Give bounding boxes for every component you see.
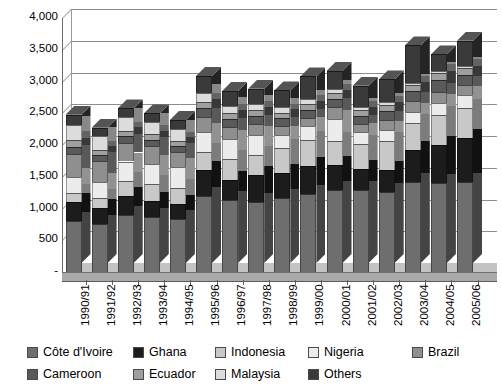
bar-segment [222,119,238,127]
bar-segment [274,148,290,173]
bar-segment [431,115,447,144]
bar-segment [118,215,134,272]
bar-segment [92,198,108,208]
bar-segment [248,175,264,201]
bar-segment [118,136,134,142]
x-axis-tick-label: 1992/93 [131,284,143,326]
bar-column [300,76,316,272]
bar-segment [118,143,134,162]
bar-segment [144,122,160,135]
bar-segment [405,182,421,272]
bar-side-face [134,99,143,263]
legend-item[interactable]: Others [308,368,362,381]
bar-column [431,54,447,272]
bar-segment [300,126,316,140]
bar-segment [274,118,290,126]
bar-segment [405,83,421,86]
bar-side-face [316,67,325,263]
bar-column [274,90,290,272]
legend-item[interactable]: Indonesia [215,346,285,359]
x-axis-tick-label: 1997/98 [261,284,273,326]
bar-segment [457,182,473,272]
bar-segment [66,125,82,141]
bar-column [222,91,238,272]
bar-segment [222,139,238,159]
bar-segment [144,146,160,164]
bar-segment [327,107,343,120]
bar-segment [92,136,108,150]
bar-segment [170,219,186,272]
x-axis-tick-label: 1995/96 [209,284,221,326]
legend-item[interactable]: Nigeria [308,346,364,359]
bar-segment [92,224,108,272]
bar-segment [353,190,369,272]
bar-segment [405,123,421,150]
bar-segment [170,204,186,219]
legend-item[interactable]: Malaysia [215,368,280,381]
bar-segment [144,217,160,272]
bar-segment [457,108,473,138]
bar-side-face [160,104,169,263]
floor-front [62,272,497,282]
bar-segment [379,102,395,105]
legend-item[interactable]: Côte d'Ivoire [27,346,113,359]
legend-item[interactable]: Ghana [133,346,187,359]
bar-segment [144,140,160,146]
bar-segment [431,73,447,80]
y-axis-tick-label: 1,500 [29,170,58,181]
bar-segment [66,147,82,154]
bar-column [379,79,395,272]
bar-segment [379,170,395,192]
legend-item[interactable]: Brazil [412,346,459,359]
bar-segment [274,113,290,119]
legend-item[interactable]: Cameroon [27,368,101,381]
bar-side-face [421,36,430,263]
bar-segment [170,120,186,129]
bar-column [353,86,369,272]
bar-segment [118,162,134,181]
bar-segment [405,91,421,101]
x-axis-tick-label: 2001/02 [366,284,378,326]
bar-segment [353,144,369,169]
x-axis-tick-label: 1991/92 [105,284,117,326]
bar-segment [353,116,369,125]
bar-segment [353,132,369,144]
bar-segment [66,140,82,146]
bar-segment [379,79,395,102]
legend-swatch-icon [133,369,144,380]
bar-segment [274,90,290,107]
bar-segment [118,117,134,131]
bar-segment [66,115,82,125]
bar-column [196,76,212,272]
bar-segment [248,116,264,124]
bar-segment [170,188,186,205]
legend-item[interactable]: Ecuador [133,368,196,381]
bar-segment [327,93,343,99]
stacked-column-chart: 4,0003,5003,0002,5002,0001,5001,000500-1… [0,0,502,392]
bar-side-face [290,81,299,263]
legend-swatch-icon [215,347,226,358]
bar-segment [327,141,343,165]
bar-segment [222,113,238,119]
bar-segment [431,80,447,91]
bar-segment [457,66,473,68]
y-axis-tick-label: 4,000 [29,11,58,22]
bar-side-face [447,45,456,263]
bar-segment [222,91,238,106]
bar-segment [66,177,82,193]
bar-segment [353,86,369,107]
gridline [71,9,497,10]
bar-segment [300,76,316,99]
bar-segment [405,101,421,111]
bar-segment [431,92,447,103]
bar-side-face [343,62,352,263]
bar-segment [379,105,395,111]
bar-segment [170,141,186,146]
bar-segment [66,221,82,272]
bar-segment [118,108,134,117]
bar-segment [327,165,343,190]
bar-side-face [473,32,482,263]
legend-label: Ghana [149,346,187,359]
bar-segment [353,107,369,110]
bar-segment [379,111,395,120]
